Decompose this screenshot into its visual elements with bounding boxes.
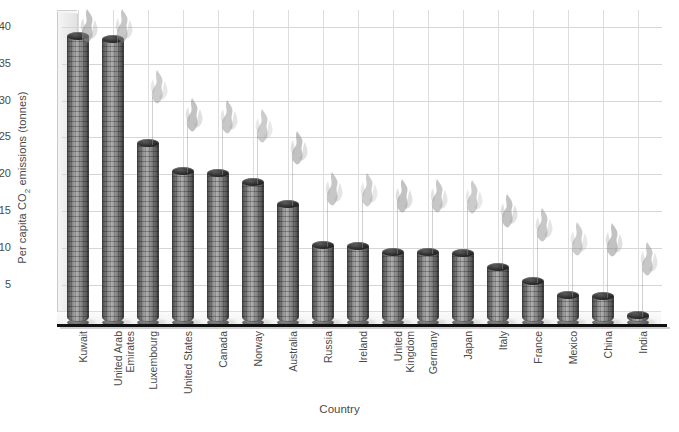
bar-body: [312, 245, 334, 323]
bar-top-ellipse: [417, 248, 439, 256]
bar-top-ellipse: [347, 242, 369, 250]
bar-body: [137, 143, 159, 322]
gridline-vertical: [603, 10, 604, 322]
bar-chimney[interactable]: [417, 252, 439, 322]
bar-chimney[interactable]: [627, 315, 649, 322]
bar-top-ellipse: [312, 241, 334, 249]
bar-body: [417, 252, 439, 322]
bar-body: [522, 281, 544, 322]
x-axis-tick-label: Canada: [218, 331, 230, 405]
y-axis-title: Per capita CO2 emissions (tonnes): [16, 68, 31, 288]
bar-chimney[interactable]: [207, 173, 229, 322]
x-axis-tick-label: United Arab Emirates: [113, 331, 136, 405]
x-axis-tick-label: India: [638, 331, 650, 405]
x-axis-baseline: [57, 324, 667, 327]
y-axis-tick-label: 20: [0, 168, 11, 179]
bar-body: [557, 295, 579, 322]
bar-top-ellipse: [522, 277, 544, 285]
bar-chimney[interactable]: [137, 143, 159, 322]
bar-body: [347, 246, 369, 322]
x-axis-tick-label: Australia: [288, 331, 300, 405]
bar-body: [172, 171, 194, 322]
x-axis-tick-label: Japan: [463, 331, 475, 405]
x-axis-tick-label: Norway: [253, 331, 265, 405]
bar-body: [67, 36, 89, 322]
y-axis-tick-label: 15: [0, 205, 11, 216]
bar-top-ellipse: [487, 263, 509, 271]
y-axis-tick-label: 40: [0, 21, 11, 32]
y-axis-tick-label: 35: [0, 58, 11, 69]
gridline-vertical: [533, 10, 534, 322]
y-axis-title-pre: Per capita CO: [16, 193, 28, 263]
gridline-vertical: [568, 10, 569, 322]
bar-chimney[interactable]: [347, 246, 369, 322]
bar-top-ellipse: [172, 167, 194, 175]
bar-chimney[interactable]: [102, 39, 124, 322]
bar-chimney[interactable]: [312, 245, 334, 323]
bar-top-ellipse: [557, 291, 579, 299]
bar-body: [452, 253, 474, 322]
x-axis-tick-label: Russia: [323, 331, 335, 405]
y-axis-title-post: emissions (tonnes): [16, 91, 28, 188]
bar-top-ellipse: [102, 35, 124, 43]
gridline-horizontal: [62, 27, 662, 28]
plot-area: [62, 10, 662, 324]
bar-top-ellipse: [452, 249, 474, 257]
bar-top-ellipse: [242, 178, 264, 186]
bar-top-ellipse: [382, 248, 404, 256]
bar-chimney[interactable]: [277, 204, 299, 322]
x-axis-tick-label: Italy: [498, 331, 510, 405]
x-axis-tick-label: Ireland: [358, 331, 370, 405]
bar-chimney[interactable]: [452, 253, 474, 322]
bar-chimney[interactable]: [242, 182, 264, 322]
bar-chimney[interactable]: [592, 296, 614, 322]
bar-chimney[interactable]: [522, 281, 544, 322]
x-axis-title: Country: [0, 403, 679, 415]
x-axis-tick-label: Germany: [428, 331, 440, 405]
x-axis-tick-label: United States: [183, 331, 195, 405]
bar-body: [242, 182, 264, 322]
bar-body: [207, 173, 229, 322]
gridline-horizontal: [62, 101, 662, 102]
bar-chimney[interactable]: [172, 171, 194, 322]
bar-chimney[interactable]: [67, 36, 89, 322]
bar-chimney[interactable]: [382, 252, 404, 322]
bar-chimney[interactable]: [557, 295, 579, 322]
bar-top-ellipse: [592, 292, 614, 300]
y-axis-tick-label: 5: [0, 279, 11, 290]
y-axis-title-subscript: 2: [23, 189, 32, 194]
bar-body: [487, 267, 509, 322]
y-axis-tick-label: 30: [0, 95, 11, 106]
bar-top-ellipse: [627, 311, 649, 319]
x-axis-tick-label: United Kingdom: [393, 331, 416, 405]
bar-top-ellipse: [277, 200, 299, 208]
bar-body: [102, 39, 124, 322]
x-axis-tick-label: Luxembourg: [148, 331, 160, 405]
gridline-horizontal: [62, 64, 662, 65]
y-axis-tick-label: 25: [0, 131, 11, 142]
bar-body: [382, 252, 404, 322]
x-axis-tick-label: France: [533, 331, 545, 405]
co2-emissions-bar-chart: Per capita CO2 emissions (tonnes) 510152…: [0, 0, 679, 432]
bar-chimney[interactable]: [487, 267, 509, 322]
x-axis-tick-label: China: [603, 331, 615, 405]
x-axis-tick-label: Kuwait: [78, 331, 90, 405]
y-axis-tick-label: 10: [0, 242, 11, 253]
x-axis-tick-label: Mexico: [568, 331, 580, 405]
bar-top-ellipse: [137, 139, 159, 147]
x-axis-baseline-shadow: [60, 327, 670, 329]
bar-body: [277, 204, 299, 322]
bar-top-ellipse: [207, 169, 229, 177]
gridline-vertical: [638, 10, 639, 322]
bar-top-ellipse: [67, 32, 89, 40]
